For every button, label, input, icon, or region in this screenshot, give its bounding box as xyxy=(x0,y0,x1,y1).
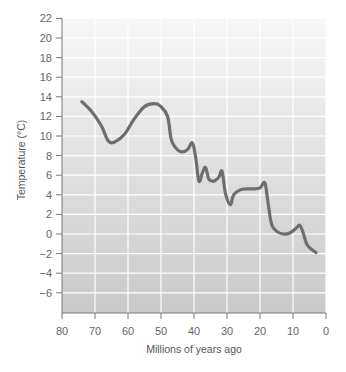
y-tick-label: −2 xyxy=(39,248,52,260)
x-tick-label: 40 xyxy=(188,325,200,337)
y-axis-ticks: 2220181614121086420−2−4−6 xyxy=(39,12,62,298)
x-tick-label: 30 xyxy=(221,325,233,337)
y-tick-label: −6 xyxy=(39,287,52,299)
x-tick-label: 70 xyxy=(89,325,101,337)
y-tick-label: 8 xyxy=(46,150,52,162)
y-tick-label: 18 xyxy=(40,52,52,64)
x-tick-label: 10 xyxy=(287,325,299,337)
x-tick-label: 50 xyxy=(155,325,167,337)
y-tick-label: 20 xyxy=(40,32,52,44)
x-tick-label: 60 xyxy=(122,325,134,337)
x-tick-label: 20 xyxy=(254,325,266,337)
y-tick-label: 0 xyxy=(46,228,52,240)
y-tick-label: 2 xyxy=(46,208,52,220)
x-tick-label: 80 xyxy=(56,325,68,337)
y-tick-label: 12 xyxy=(40,110,52,122)
y-tick-label: 14 xyxy=(40,91,52,103)
y-tick-label: 4 xyxy=(46,189,52,201)
temperature-chart: 2220181614121086420−2−4−6 80706050403020… xyxy=(0,0,346,372)
y-tick-label: 6 xyxy=(46,169,52,181)
x-axis-ticks: 80706050403020100 xyxy=(56,313,329,337)
y-axis-title: Temperature (°C) xyxy=(15,120,27,201)
x-axis-title: Millions of years ago xyxy=(146,343,242,355)
y-tick-label: 22 xyxy=(40,12,52,24)
x-tick-label: 0 xyxy=(323,325,329,337)
y-tick-label: 16 xyxy=(40,71,52,83)
y-tick-label: 10 xyxy=(40,130,52,142)
y-tick-label: −4 xyxy=(39,267,52,279)
